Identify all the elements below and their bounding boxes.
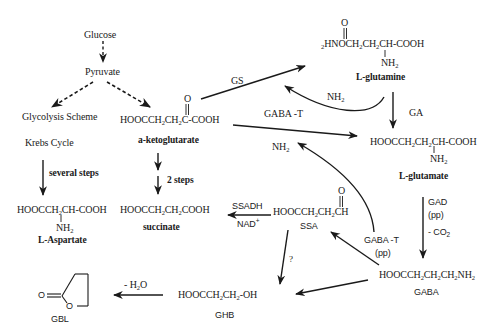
node-gaba: GABA [414,287,439,298]
node-a-ketoglutarate: a-ketoglutarate [138,135,199,146]
ssa-formula: HOOCCH2CH2CH [273,206,348,217]
pathway-diagram: Glucose Pyruvate Glycolysis Scheme Krebs… [0,0,497,336]
node-l-glutamate: L-glutamate [399,171,448,182]
node-glycolysis-scheme: Glycolysis Scheme [22,111,97,122]
gaba-formula: HOOCCH2CH2CH2NH2 [379,269,475,280]
label-nh2-top: NH2 [327,91,344,102]
node-succinate: succinate [143,222,180,233]
cofactor-nad: NAD+ [237,219,259,230]
arrow-ssa-ghb [280,230,288,284]
label-nh2-mid: NH2 [272,141,289,152]
enzyme-gs: GS [231,75,244,86]
gbl-ring-oxygen: O [66,301,73,312]
label-several-steps: several steps [49,168,99,179]
label-2-steps: 2 steps [167,175,193,186]
aspartate-amine: NH2 [56,222,73,233]
gbl-carbonyl-oxygen: O [38,290,45,301]
enzyme-gad: GAD [428,197,447,208]
glutamine-oxygen: O [341,17,348,28]
arrow-gs [201,66,305,99]
enzyme-gaba-t-bottom: GABA -T [364,235,399,246]
glutamate-amine: NH2 [430,153,447,164]
label-minus-co2: - CO2 [428,227,450,238]
node-l-aspartate: L-Aspartate [38,235,87,246]
enzyme-gaba-t-cofactor: (pp) [375,248,391,259]
enzyme-gad-cofactor: (pp) [428,210,444,221]
akg-oxygen: O [184,93,191,104]
node-ssa: SSA [300,221,318,232]
enzyme-gaba-t-top: GABA -T [264,108,303,119]
glutamate-formula: HOOCCH2CH2CH-COOH [370,136,477,147]
aspartate-formula: HOOCCH2CH-COOH [17,204,107,215]
arrow-pyruvate-glycolysis [52,82,93,107]
glutamine-formula: 2HNOCH2CH2CH-COOH [321,38,424,49]
node-krebs-cycle: Krebs Cycle [25,137,74,148]
glutamine-amine: NH2 [381,57,398,68]
arrow-gaba-t-curve [298,143,374,232]
label-unknown-step: ? [289,254,293,265]
arrow-gaba-ghb [296,280,368,294]
enzyme-ga: GA [409,107,423,118]
node-gbl: GBL [51,314,69,325]
node-pyruvate: Pyruvate [85,66,120,77]
succinate-formula: HOOCCH2CH2COOH [120,204,210,215]
akg-formula: HOOCCH2CH2C-COOH [120,114,219,125]
ghb-formula: HOOCCH2CH2-OH [178,289,257,300]
arrow-gaba-t-top [233,125,357,136]
ssa-oxygen: O [338,185,345,196]
node-l-glutamine: L-glutamine [356,72,405,83]
node-ghb: GHB [215,310,234,321]
arrow-pyruvate-akg [107,82,150,107]
label-minus-water: - H2O [124,279,147,290]
node-glucose: Glucose [84,29,116,40]
enzyme-ssadh: SSADH [232,201,263,212]
